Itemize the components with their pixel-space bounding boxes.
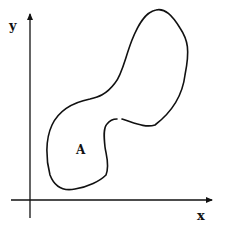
region-boundary-curve bbox=[47, 10, 188, 190]
region-label: A bbox=[75, 143, 86, 157]
diagram-canvas: y x A bbox=[0, 0, 225, 233]
x-axis-label: x bbox=[197, 208, 205, 223]
y-axis-label: y bbox=[8, 18, 17, 33]
